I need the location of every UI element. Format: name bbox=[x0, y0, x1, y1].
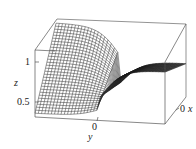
x-tick-0: 0 bbox=[180, 104, 185, 114]
x-axis-label: x bbox=[188, 104, 192, 114]
z-axis-label: z bbox=[14, 78, 18, 88]
bounding-box-back bbox=[57, 19, 186, 97]
z-tick-0.5: 0.5 bbox=[17, 97, 30, 107]
y-tick-0: 0 bbox=[92, 122, 97, 132]
y-axis-label: y bbox=[88, 132, 92, 142]
wireframe-surface bbox=[35, 23, 186, 114]
z-tick-1: 1 bbox=[25, 57, 30, 67]
surface-plot bbox=[0, 0, 196, 149]
